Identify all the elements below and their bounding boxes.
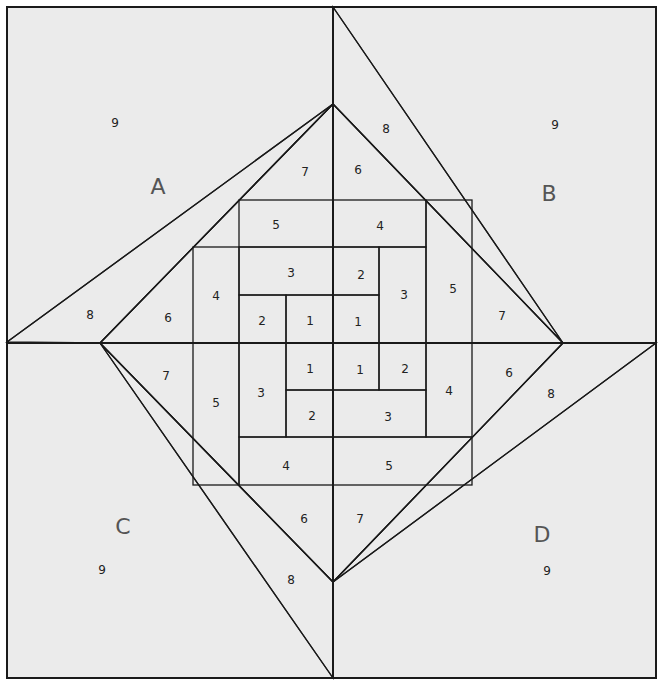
quadrant-c-label-3: 3	[257, 386, 265, 400]
quadrant-d-label-7: 7	[356, 512, 364, 526]
quadrant-a-label-5: 5	[272, 218, 280, 232]
quadrant-d-label-4: 4	[445, 384, 453, 398]
quadrant-a-label-1: 1	[306, 314, 314, 328]
quadrant-c-label-4: 4	[282, 459, 290, 473]
quadrant-a-label-6: 6	[164, 311, 172, 325]
quadrant-d-label-1: 1	[356, 363, 364, 377]
quadrant-b-label-4: 4	[376, 219, 384, 233]
quadrant-b-label-5: 5	[449, 282, 457, 296]
quadrant-c-label-6: 6	[300, 512, 308, 526]
quadrant-b-label-9: 9	[551, 118, 559, 132]
quadrant-b-label-6: 6	[354, 163, 362, 177]
quadrant-b-label-8: 8	[382, 122, 390, 136]
quadrant-a-label-3: 3	[287, 266, 295, 280]
quadrant-d-label-5: 5	[385, 459, 393, 473]
quadrant-a-label-4: 4	[212, 289, 220, 303]
quadrant-a-label-9: 9	[111, 116, 119, 130]
quadrant-c-label-8: 8	[287, 573, 295, 587]
quadrant-c-label-1: 1	[306, 362, 314, 376]
quadrant-b-label-2: 2	[357, 268, 365, 282]
quadrant-d-label-9: 9	[543, 564, 551, 578]
quadrant-b-label-7: 7	[498, 309, 506, 323]
quadrant-a-label-8: 8	[86, 308, 94, 322]
quadrant-c-label-9: 9	[98, 563, 106, 577]
quadrant-c-label-5: 5	[212, 396, 220, 410]
quadrant-a-label-7: 7	[301, 165, 309, 179]
quadrant-a-label-2: 2	[258, 314, 266, 328]
quadrant-b-label-3: 3	[400, 288, 408, 302]
quadrant-d-letter: D	[534, 522, 551, 547]
quadrant-b-letter: B	[541, 181, 556, 206]
quadrant-d-label-2: 2	[401, 362, 409, 376]
quadrant-c-label-7: 7	[162, 369, 170, 383]
quadrant-c-label-2: 2	[308, 409, 316, 423]
quadrant-a-letter: A	[150, 174, 165, 199]
quilt-block-diagram: A 9 8 7 6 5 4 3 2 1 B 9 8 7 6 5 4 3 2 1 …	[0, 0, 662, 690]
quadrant-d-label-8: 8	[547, 387, 555, 401]
quadrant-b-label-1: 1	[354, 315, 362, 329]
quadrant-d-label-3: 3	[384, 410, 392, 424]
quadrant-d-label-6: 6	[505, 366, 513, 380]
quadrant-c-letter: C	[115, 514, 130, 539]
